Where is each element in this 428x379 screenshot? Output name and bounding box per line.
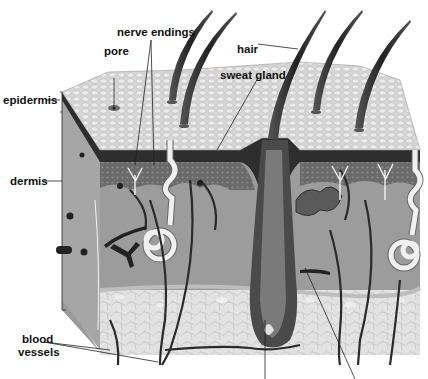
label-blood-vessels-line1: blood (22, 333, 53, 346)
label-hair: hair (237, 43, 258, 56)
label-nerve-endings: nerve endings (117, 26, 195, 39)
label-pore: pore (104, 45, 129, 58)
label-epidermis: epidermis (3, 94, 57, 107)
skin-diagram: nerve endings pore hair sweat gland epid… (0, 0, 428, 379)
label-dermis: dermis (10, 175, 48, 188)
label-blood-vessels-line2: vessels (18, 346, 60, 359)
label-sweat-gland: sweat gland (220, 69, 286, 82)
skin-illustration (0, 0, 428, 379)
